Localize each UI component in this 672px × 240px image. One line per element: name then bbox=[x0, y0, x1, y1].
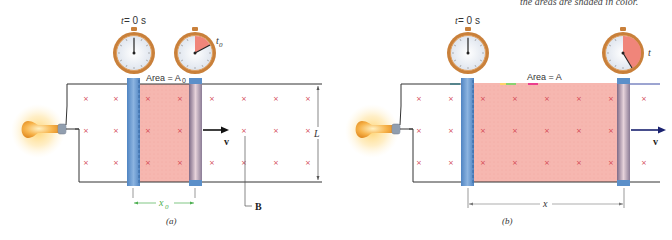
svg-text:×: × bbox=[177, 127, 183, 135]
velocity-arrow-a: v bbox=[203, 127, 229, 148]
velocity-arrow-b: v bbox=[631, 127, 666, 148]
svg-text:×: × bbox=[480, 127, 486, 135]
svg-text:×: × bbox=[273, 95, 279, 103]
svg-text:×: × bbox=[241, 95, 247, 103]
svg-text:×: × bbox=[480, 159, 486, 167]
svg-text:Area = A: Area = A bbox=[146, 73, 181, 83]
svg-text:×: × bbox=[576, 95, 582, 103]
velocity-label-a: v bbox=[224, 136, 229, 147]
svg-text:×: × bbox=[273, 159, 279, 167]
svg-text:×: × bbox=[305, 95, 311, 103]
svg-text:×: × bbox=[512, 95, 518, 103]
svg-text:×: × bbox=[512, 127, 518, 135]
svg-text:×: × bbox=[448, 159, 454, 167]
svg-text:x: x bbox=[542, 198, 548, 209]
svg-text:×: × bbox=[608, 127, 614, 135]
stopwatch-elapsed-a: t 0 bbox=[174, 27, 223, 74]
area-label-b: Area = A bbox=[527, 72, 562, 82]
light-bulb-icon-b bbox=[345, 104, 413, 158]
svg-text:×: × bbox=[209, 159, 215, 167]
panel-a: L × × × × × × × × × × × × × × × × × × × … bbox=[11, 15, 323, 226]
svg-text:×: × bbox=[83, 127, 89, 135]
svg-text:×: × bbox=[544, 127, 550, 135]
stopwatch-start-b: t = 0 s bbox=[447, 15, 489, 74]
svg-text:B: B bbox=[255, 201, 262, 212]
svg-text:×: × bbox=[544, 159, 550, 167]
svg-text:×: × bbox=[641, 95, 647, 103]
svg-text:×: × bbox=[448, 127, 454, 135]
svg-text:×: × bbox=[576, 127, 582, 135]
svg-text:= 0 s: = 0 s bbox=[124, 15, 146, 26]
svg-text:×: × bbox=[177, 95, 183, 103]
svg-text:= 0 s: = 0 s bbox=[458, 15, 480, 26]
length-dimension-a: L bbox=[313, 86, 323, 180]
svg-text:×: × bbox=[416, 127, 422, 135]
svg-text:×: × bbox=[641, 159, 647, 167]
light-bulb-icon-a bbox=[11, 104, 79, 158]
svg-text:×: × bbox=[608, 95, 614, 103]
stopwatch-elapsed-b: t bbox=[602, 27, 651, 74]
svg-text:×: × bbox=[241, 159, 247, 167]
svg-text:×: × bbox=[209, 95, 215, 103]
svg-text:v: v bbox=[653, 136, 658, 147]
svg-text:t: t bbox=[648, 47, 651, 58]
svg-text:0: 0 bbox=[165, 203, 169, 211]
svg-text:×: × bbox=[177, 159, 183, 167]
svg-text:×: × bbox=[305, 159, 311, 167]
svg-text:0: 0 bbox=[219, 41, 223, 49]
x-dimension-b: x bbox=[468, 188, 624, 210]
svg-text:0: 0 bbox=[182, 77, 186, 84]
svg-text:×: × bbox=[448, 95, 454, 103]
moving-rod-b[interactable] bbox=[617, 78, 630, 186]
rod-initial-a bbox=[127, 78, 140, 186]
svg-text:×: × bbox=[608, 159, 614, 167]
svg-text:×: × bbox=[305, 127, 311, 135]
figure-canvas: the areas are shaded in color. L × × × ×… bbox=[0, 0, 672, 240]
svg-text:×: × bbox=[416, 159, 422, 167]
svg-text:×: × bbox=[113, 127, 119, 135]
svg-text:×: × bbox=[544, 95, 550, 103]
x0-dimension-a: x 0 bbox=[133, 188, 195, 211]
top-note: the areas are shaded in color. bbox=[520, 0, 638, 7]
svg-text:×: × bbox=[83, 95, 89, 103]
rod-initial-b bbox=[461, 78, 474, 186]
svg-text:×: × bbox=[241, 127, 247, 135]
panel-b: × × × × × × × × × × × × × × × × × × × × … bbox=[345, 15, 666, 226]
svg-text:×: × bbox=[512, 159, 518, 167]
svg-text:×: × bbox=[145, 95, 151, 103]
svg-text:×: × bbox=[480, 95, 486, 103]
svg-text:×: × bbox=[416, 95, 422, 103]
length-label-a: L bbox=[313, 128, 320, 139]
svg-text:×: × bbox=[273, 127, 279, 135]
svg-text:×: × bbox=[83, 159, 89, 167]
svg-text:×: × bbox=[576, 159, 582, 167]
svg-text:×: × bbox=[113, 159, 119, 167]
svg-text:x: x bbox=[158, 197, 164, 208]
moving-rod-a[interactable] bbox=[189, 78, 202, 186]
caption-b: (b) bbox=[502, 216, 513, 226]
svg-text:×: × bbox=[113, 95, 119, 103]
stopwatch-start-a: t = 0 s bbox=[113, 15, 155, 74]
svg-text:×: × bbox=[145, 159, 151, 167]
area-label-a: Area = A 0 bbox=[146, 73, 186, 84]
field-label-a: B bbox=[245, 136, 262, 212]
svg-text:×: × bbox=[145, 127, 151, 135]
caption-a: (a) bbox=[166, 216, 177, 226]
